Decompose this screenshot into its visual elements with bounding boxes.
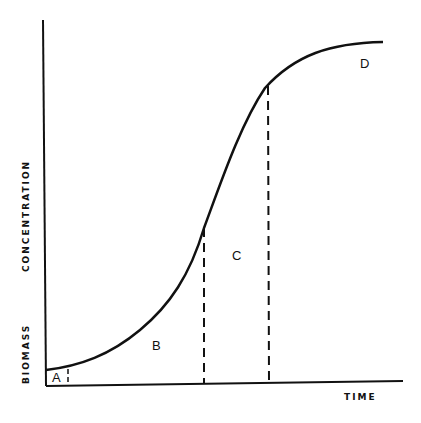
y-axis-label-concentration: CONCENTRATION: [21, 160, 31, 272]
y-axis: [43, 20, 46, 386]
x-axis: [46, 381, 403, 386]
phase-label-b: B: [152, 338, 161, 353]
y-axis-label-biomass: BIOMASS: [21, 324, 31, 384]
growth-curve: [46, 42, 383, 370]
x-axis-label: TIME: [344, 392, 377, 402]
boundary-c-d: [268, 86, 269, 383]
phase-label-a: A: [52, 370, 61, 385]
growth-curve-diagram: [0, 0, 421, 423]
phase-label-c: C: [232, 248, 241, 263]
phase-label-d: D: [360, 56, 369, 71]
